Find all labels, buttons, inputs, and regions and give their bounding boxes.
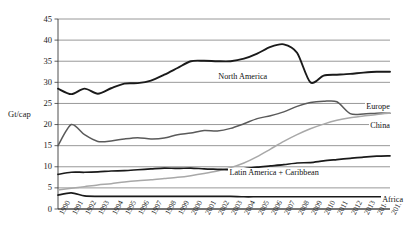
y-tick-label: 45 <box>30 15 52 24</box>
y-tick-label: 20 <box>30 120 52 129</box>
y-tick-label: 25 <box>30 99 52 108</box>
series-label: Latin America + Caribbean <box>228 168 319 177</box>
y-tick-label: 5 <box>30 183 52 192</box>
y-tick-label: 0 <box>30 205 52 214</box>
series-lines <box>58 44 390 197</box>
series-label: China <box>369 121 391 130</box>
series-line-north-america <box>58 44 390 94</box>
y-tick-label: 10 <box>30 162 52 171</box>
gridlines <box>58 19 390 209</box>
y-tick-label: 35 <box>30 57 52 66</box>
y-tick-label: 40 <box>30 36 52 45</box>
y-axis-title: Gt/cap <box>8 109 31 119</box>
series-label: Europe <box>365 102 391 111</box>
series-label: North America <box>217 72 268 81</box>
y-tick-label: 15 <box>30 141 52 150</box>
series-label: Africa <box>381 195 404 204</box>
series-line-africa <box>58 193 390 197</box>
series-line-europe <box>58 101 390 146</box>
series-line-latin-america-caribbean <box>58 156 390 175</box>
y-tick-label: 30 <box>30 78 52 87</box>
axis-lines <box>55 19 391 209</box>
